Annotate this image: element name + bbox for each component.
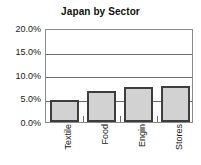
baseline-tick	[120, 116, 121, 122]
x-tick-label-text: Engin	[138, 124, 147, 147]
x-tick-label: Stores	[155, 124, 195, 164]
y-axis: 0.0%5.0%10.0%15.0%20.0%	[0, 24, 43, 123]
x-tick-label: Engin	[118, 124, 158, 164]
x-tick-label: Food	[81, 124, 121, 164]
x-tick-label-text: Food	[101, 124, 110, 145]
y-tick-label: 10.0%	[0, 72, 41, 81]
bar-chart: Japan by Sector 0.0%5.0%10.0%15.0%20.0% …	[0, 0, 201, 165]
x-tick-label-text: Stores	[175, 124, 184, 150]
bar	[161, 86, 190, 122]
y-tick-label: 15.0%	[0, 48, 41, 57]
chart-title: Japan by Sector	[0, 6, 201, 17]
baseline-tick	[157, 116, 158, 122]
bar	[87, 91, 116, 122]
plot-area	[45, 29, 193, 123]
bars-group	[46, 30, 192, 122]
y-tick-label: 20.0%	[0, 25, 41, 34]
x-axis: TextileFoodEnginStores	[45, 124, 193, 165]
x-tick-label-text: Textile	[64, 124, 73, 150]
baseline-tick	[83, 116, 84, 122]
y-tick-label: 0.0%	[0, 119, 41, 128]
bar	[50, 100, 79, 122]
y-tick-label: 5.0%	[0, 95, 41, 104]
bar	[124, 87, 153, 122]
x-tick-label: Textile	[44, 124, 84, 164]
